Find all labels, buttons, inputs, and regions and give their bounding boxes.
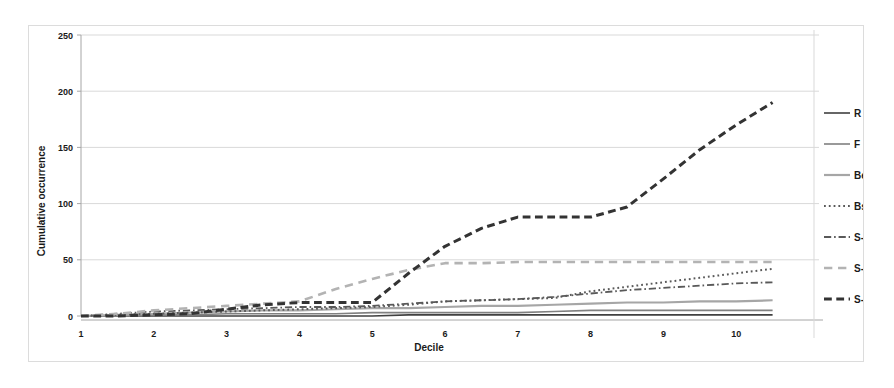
x-axis-tick-label: 9 xyxy=(661,329,666,339)
legend-item-R[interactable]: R xyxy=(824,108,862,119)
legend: RFBeBsS-sS-bS-t xyxy=(814,30,863,338)
y-axis-title: Cumulative occurrence xyxy=(36,145,47,256)
x-axis-tick-label: 2 xyxy=(151,329,156,339)
legend-item-S-b[interactable]: S-b xyxy=(824,263,863,274)
y-axis-tick-label: 50 xyxy=(63,255,73,265)
y-axis-tick-label: 100 xyxy=(58,199,73,209)
x-axis-tick-label: 3 xyxy=(224,329,229,339)
x-axis-tick-label: 7 xyxy=(515,329,520,339)
x-axis-tick-label: 4 xyxy=(297,329,302,339)
x-axis-title: Decile xyxy=(414,342,444,353)
legend-label-S-t: S-t xyxy=(854,294,863,305)
legend-item-S-t[interactable]: S-t xyxy=(824,294,863,305)
legend-item-S-s[interactable]: S-s xyxy=(824,232,863,243)
chart-frame: 050100150200250 12345678910 RFBeBsS-sS-b… xyxy=(28,25,864,362)
line-chart: 050100150200250 12345678910 RFBeBsS-sS-b… xyxy=(29,26,863,361)
x-axis-tick-label: 6 xyxy=(442,329,447,339)
gridlines xyxy=(81,35,819,260)
legend-label-R: R xyxy=(854,108,862,119)
legend-label-S-b: S-b xyxy=(854,263,863,274)
x-axis-tick-label: 5 xyxy=(370,329,375,339)
y-axis-tick-labels: 050100150200250 xyxy=(58,31,73,322)
data-series-group xyxy=(81,102,773,316)
y-axis-tick-label: 250 xyxy=(58,31,73,41)
x-axis-tick-label: 1 xyxy=(78,329,83,339)
legend-label-S-s: S-s xyxy=(854,232,863,243)
y-axis-tick-label: 200 xyxy=(58,87,73,97)
legend-label-Bs: Bs xyxy=(854,201,863,212)
y-axis-tick-label: 0 xyxy=(68,312,73,322)
x-axis-tick-label: 10 xyxy=(731,329,741,339)
legend-item-F[interactable]: F xyxy=(824,139,860,150)
y-axis-tick-label: 150 xyxy=(58,143,73,153)
series-line-S-t xyxy=(81,102,773,316)
legend-item-Be[interactable]: Be xyxy=(824,170,863,181)
legend-item-Bs[interactable]: Bs xyxy=(824,201,863,212)
x-axis-tick-labels: 12345678910 xyxy=(78,329,741,339)
x-axis-tick-label: 8 xyxy=(588,329,593,339)
legend-label-Be: Be xyxy=(854,170,863,181)
axes xyxy=(77,35,823,320)
legend-label-F: F xyxy=(854,139,860,150)
